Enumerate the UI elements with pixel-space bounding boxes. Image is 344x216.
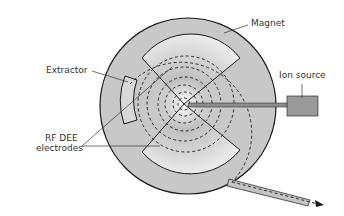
label-extractor: Extractor <box>46 65 87 75</box>
label-ion-source: Ion source <box>279 70 326 80</box>
ion-source-rod <box>188 103 288 107</box>
beam-arrow-icon <box>315 200 324 207</box>
cyclotron-diagram <box>0 0 344 216</box>
label-rf-dee-line2: electrodes <box>36 143 83 153</box>
beam-tube <box>227 179 310 206</box>
label-magnet: Magnet <box>251 18 285 28</box>
label-rf-dee-line1: RF DEE <box>45 133 78 143</box>
ion-source-box <box>287 96 318 116</box>
